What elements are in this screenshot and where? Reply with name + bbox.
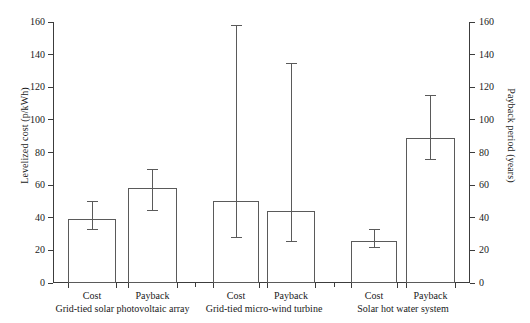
error-bar-cap-upper [369, 229, 380, 230]
y-tick-right [470, 22, 475, 23]
error-bar-cap-lower [231, 237, 242, 238]
y-tick-label-right: 120 [479, 82, 509, 92]
x-group-label: Solar hot water system [357, 303, 448, 314]
y-tick-label-right: 80 [479, 148, 509, 158]
error-bar-cap-upper [147, 169, 158, 170]
x-tick [213, 283, 214, 288]
y-tick-label-left: 160 [15, 17, 45, 27]
error-bar-cap-lower [87, 229, 98, 230]
y-tick-label-right: 100 [479, 115, 509, 125]
x-category-label: Cost [365, 290, 383, 301]
y-tick-left [48, 250, 53, 251]
y-tick-label-right: 160 [479, 17, 509, 27]
y-tick-label-right: 40 [479, 213, 509, 223]
x-tick [68, 283, 69, 288]
x-group-separator [195, 283, 196, 287]
x-tick [259, 283, 260, 288]
x-tick [128, 283, 129, 288]
error-bar-line [374, 229, 375, 247]
x-tick [455, 283, 456, 288]
y-tick-right [470, 119, 475, 120]
y-tick-label-left: 40 [15, 213, 45, 223]
y-tick-label-right: 140 [479, 50, 509, 60]
y-tick-label-left: 120 [15, 82, 45, 92]
x-tick [267, 283, 268, 288]
y-tick-right [470, 87, 475, 88]
y-tick-label-right: 20 [479, 245, 509, 255]
x-category-label: Payback [274, 290, 308, 301]
error-bar-line [291, 63, 292, 241]
error-bar-cap-lower [425, 159, 436, 160]
y-tick-label-left: 80 [15, 148, 45, 158]
x-tick [315, 283, 316, 288]
axis-spine-left [53, 22, 54, 283]
y-tick-label-left: 0 [15, 278, 45, 288]
y-tick-right [470, 250, 475, 251]
error-bar-cap-upper [425, 95, 436, 96]
x-group-label: Grid-tied micro-wind turbine [206, 303, 323, 314]
error-bar-line [152, 169, 153, 210]
y-tick-label-left: 140 [15, 50, 45, 60]
y-tick-right [470, 152, 475, 153]
x-tick [351, 283, 352, 288]
x-tick [177, 283, 178, 288]
y-tick-left [48, 22, 53, 23]
x-category-label: Cost [83, 290, 101, 301]
error-bar-cap-lower [286, 241, 297, 242]
error-bar-cap-upper [231, 25, 242, 26]
x-tick [406, 283, 407, 288]
error-bar-cap-upper [286, 63, 297, 64]
y-tick-label-right: 60 [479, 180, 509, 190]
y-tick-right [470, 217, 475, 218]
x-category-label: Cost [227, 290, 245, 301]
x-tick [116, 283, 117, 288]
y-tick-left [48, 283, 53, 284]
error-bar-line [236, 25, 237, 237]
x-tick [397, 283, 398, 288]
x-category-label: Payback [414, 290, 448, 301]
error-bar-cap-upper [87, 201, 98, 202]
plot-area: 020406080100120140160 020406080100120140… [53, 22, 470, 283]
y-tick-left [48, 119, 53, 120]
y-tick-right [470, 54, 475, 55]
error-bar-line [430, 95, 431, 159]
error-bar-line [92, 201, 93, 229]
y-tick-left [48, 54, 53, 55]
y-tick-left [48, 152, 53, 153]
y-tick-label-right: 0 [479, 278, 509, 288]
x-category-label: Payback [136, 290, 170, 301]
y-tick-right [470, 185, 475, 186]
y-tick-label-left: 100 [15, 115, 45, 125]
chart-figure: Levelized cost (p/kWh) Payback period (y… [0, 0, 530, 323]
y-tick-left [48, 185, 53, 186]
y-tick-left [48, 87, 53, 88]
y-tick-label-left: 60 [15, 180, 45, 190]
y-tick-right [470, 283, 475, 284]
y-tick-left [48, 217, 53, 218]
error-bar-cap-lower [369, 247, 380, 248]
error-bar-cap-lower [147, 210, 158, 211]
x-group-separator [334, 283, 335, 287]
x-group-label: Grid-tied solar photovoltaic array [55, 303, 189, 314]
y-tick-label-left: 20 [15, 245, 45, 255]
